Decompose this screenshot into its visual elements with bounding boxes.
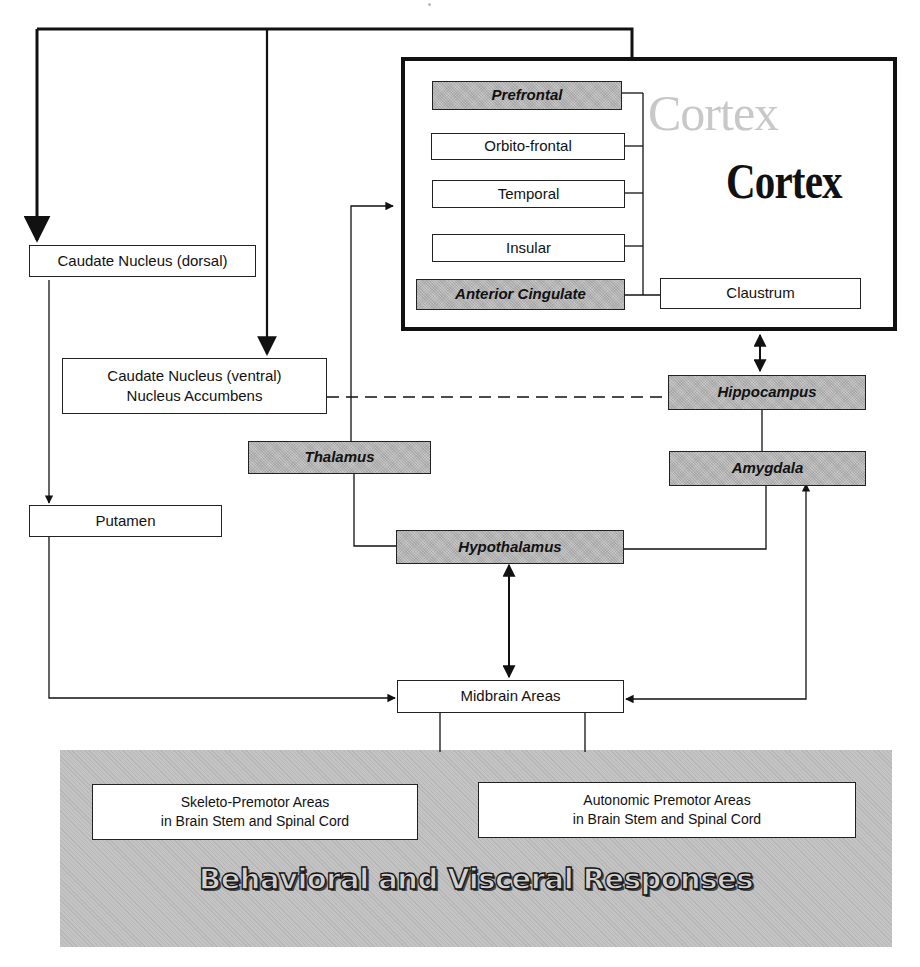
node-caudate-dorsal: Caudate Nucleus (dorsal) (29, 245, 256, 277)
node-label: Putamen (95, 511, 155, 531)
node-temporal: Temporal (432, 180, 625, 208)
node-caudate-ventral: Caudate Nucleus (ventral) Nucleus Accumb… (62, 358, 327, 414)
node-insular: Insular (432, 234, 625, 262)
node-amygdala: Amygdala (669, 451, 866, 486)
responses-title: Behavioral and Visceral Responses (60, 862, 892, 896)
node-label: Anterior Cingulate (455, 284, 586, 304)
node-label: Insular (506, 238, 551, 258)
node-thalamus: Thalamus (248, 441, 431, 474)
node-label-line2: in Brain Stem and Spinal Cord (161, 812, 349, 831)
node-label-line1: Caudate Nucleus (ventral) (107, 366, 281, 386)
node-prefrontal: Prefrontal (432, 81, 622, 110)
node-hypothalamus: Hypothalamus (396, 530, 624, 564)
node-label: Prefrontal (492, 85, 563, 105)
node-anterior-cingulate: Anterior Cingulate (416, 279, 625, 310)
node-label: Claustrum (726, 283, 794, 303)
node-orbito-frontal: Orbito-frontal (431, 133, 625, 160)
node-label-line1: Autonomic Premotor Areas (583, 791, 750, 810)
node-label: Orbito-frontal (484, 136, 572, 156)
node-label: Midbrain Areas (460, 686, 560, 706)
node-skeleto-premotor: Skeleto-Premotor Areas in Brain Stem and… (92, 784, 418, 840)
node-label-line1: Skeleto-Premotor Areas (181, 793, 330, 812)
node-label: Caudate Nucleus (dorsal) (57, 251, 227, 271)
node-autonomic-premotor: Autonomic Premotor Areas in Brain Stem a… (478, 782, 856, 838)
node-label-line2: in Brain Stem and Spinal Cord (573, 810, 761, 829)
node-label: Amygdala (732, 458, 804, 478)
cortex-title: Cortex (726, 152, 842, 210)
node-label: Hippocampus (717, 382, 816, 402)
cortex-ghost-title: Cortex (648, 84, 778, 142)
node-putamen: Putamen (29, 505, 222, 537)
node-hippocampus: Hippocampus (668, 375, 866, 410)
node-claustrum: Claustrum (660, 278, 861, 309)
node-midbrain-areas: Midbrain Areas (397, 680, 624, 713)
node-label-line2: Nucleus Accumbens (127, 386, 263, 406)
node-label: Temporal (498, 184, 560, 204)
node-label: Thalamus (304, 447, 374, 467)
node-label: Hypothalamus (458, 537, 561, 557)
